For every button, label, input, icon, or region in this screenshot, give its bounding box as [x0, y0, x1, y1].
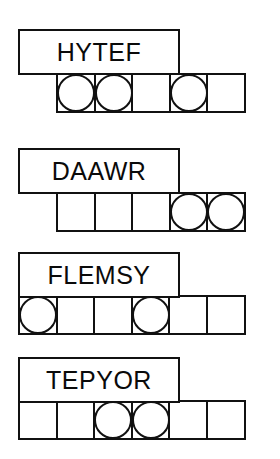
answer-cell[interactable] — [94, 192, 134, 232]
answer-cell[interactable] — [94, 73, 134, 113]
answer-cell[interactable] — [131, 400, 171, 440]
answer-cell[interactable] — [206, 400, 246, 440]
key-letter-circle-icon — [19, 296, 57, 334]
answer-cell[interactable] — [56, 295, 96, 335]
answer-grid — [18, 400, 246, 440]
word-unscramble-worksheet: HYTEFDAAWRFLEMSYTEPYOR — [0, 0, 280, 459]
scrambled-word-box: DAAWR — [18, 148, 180, 194]
scrambled-word-text: FLEMSY — [47, 262, 150, 287]
key-letter-circle-icon — [170, 193, 208, 231]
scrambled-word-box: TEPYOR — [18, 357, 180, 403]
answer-cell[interactable] — [131, 295, 171, 335]
answer-cell[interactable] — [131, 73, 171, 113]
key-letter-circle-icon — [207, 193, 245, 231]
answer-cell[interactable] — [206, 295, 246, 335]
answer-cell[interactable] — [169, 73, 209, 113]
answer-cell[interactable] — [168, 295, 208, 335]
answer-cell[interactable] — [169, 192, 209, 232]
key-letter-circle-icon — [94, 401, 132, 439]
answer-cell[interactable] — [18, 295, 58, 335]
scrambled-word-text: DAAWR — [52, 158, 147, 183]
answer-grid — [56, 192, 246, 232]
answer-cell[interactable] — [168, 400, 208, 440]
answer-cell[interactable] — [93, 295, 133, 335]
scrambled-word-text: HYTEF — [57, 39, 141, 64]
key-letter-circle-icon — [57, 74, 95, 112]
answer-cell[interactable] — [131, 192, 171, 232]
answer-cell[interactable] — [206, 192, 246, 232]
answer-grid — [18, 295, 246, 335]
answer-cell[interactable] — [18, 400, 58, 440]
key-letter-circle-icon — [132, 296, 170, 334]
answer-cell[interactable] — [206, 73, 246, 113]
key-letter-circle-icon — [95, 74, 133, 112]
key-letter-circle-icon — [132, 401, 170, 439]
scrambled-word-text: TEPYOR — [46, 367, 152, 392]
scrambled-word-box: HYTEF — [18, 29, 180, 75]
answer-cell[interactable] — [56, 73, 96, 113]
scrambled-word-box: FLEMSY — [18, 252, 180, 298]
answer-cell[interactable] — [56, 400, 96, 440]
answer-grid — [56, 73, 246, 113]
key-letter-circle-icon — [170, 74, 208, 112]
answer-cell[interactable] — [56, 192, 96, 232]
answer-cell[interactable] — [93, 400, 133, 440]
